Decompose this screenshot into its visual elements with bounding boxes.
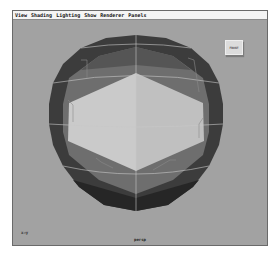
menu-shading[interactable]: Shading bbox=[31, 11, 52, 19]
menu-show[interactable]: Show bbox=[84, 11, 96, 19]
3d-viewport[interactable]: FRONT x→y persp bbox=[13, 20, 267, 245]
camera-label: persp bbox=[13, 237, 267, 242]
viewcube[interactable]: FRONT bbox=[225, 40, 243, 55]
menu-panels[interactable]: Panels bbox=[128, 11, 146, 19]
panel-menubar: View Shading Lighting Show Renderer Pane… bbox=[13, 11, 267, 20]
viewport-panel: View Shading Lighting Show Renderer Pane… bbox=[12, 10, 268, 246]
viewcube-label: FRONT bbox=[229, 46, 238, 50]
menu-view[interactable]: View bbox=[15, 11, 27, 19]
menu-renderer[interactable]: Renderer bbox=[100, 11, 124, 19]
axis-indicator: x→y bbox=[21, 230, 28, 235]
menu-lighting[interactable]: Lighting bbox=[56, 11, 80, 19]
